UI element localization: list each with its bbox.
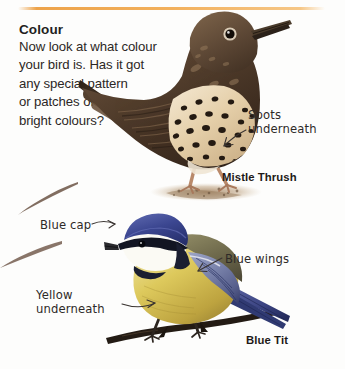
thrush-beak <box>251 20 292 40</box>
bluetit-eye <box>139 241 146 248</box>
callout-spots-line1: Spots <box>248 108 317 122</box>
callout-blue-wings: Blue wings <box>225 252 289 266</box>
thrush-eye <box>223 27 236 40</box>
callout-yellow-line2: underneath <box>36 302 105 316</box>
thrush-breast <box>169 85 255 166</box>
colour-page: Colour Now look at what colour your bird… <box>0 0 345 369</box>
callout-blue-cap-line1: Blue cap <box>40 218 91 232</box>
callout-yellow: Yellow underneath <box>36 288 105 316</box>
bluetit-beak <box>104 242 119 250</box>
callout-spots: Spots underneath <box>248 108 317 136</box>
callout-yellow-line1: Yellow <box>36 288 105 302</box>
callout-blue-wings-line1: Blue wings <box>225 252 289 266</box>
twig-upper <box>18 182 78 215</box>
ground-patch <box>150 183 262 201</box>
species-label-blue-tit: Blue Tit <box>246 334 288 346</box>
callout-spots-line2: underneath <box>248 122 317 136</box>
callout-blue-cap: Blue cap <box>40 218 91 232</box>
species-label-mistle-thrush: Mistle Thrush <box>222 171 297 183</box>
twig-lower <box>0 241 62 268</box>
